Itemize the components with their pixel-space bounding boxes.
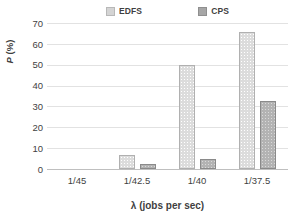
- legend-item-cps: CPS: [198, 7, 229, 16]
- bar-group-1-37-5: [227, 23, 287, 169]
- x-tick-label-1-45: 1/45: [47, 176, 107, 186]
- bar-group-1-42-5: [107, 23, 167, 169]
- legend-item-edfs: EDFS: [106, 7, 142, 16]
- bar-edfs-1-42-5[interactable]: [119, 155, 135, 169]
- y-tick-label-50: 50: [3, 60, 43, 70]
- x-tick-label-1-42-5: 1/42.5: [107, 176, 167, 186]
- y-axis-title: P (%): [4, 22, 15, 82]
- y-tick-label-60: 60: [3, 40, 43, 50]
- bar-edfs-1-37-5[interactable]: [239, 32, 255, 169]
- y-tick-label-0: 0: [3, 165, 43, 175]
- y-tick-label-20: 20: [3, 123, 43, 133]
- bar-cps-1-40[interactable]: [200, 159, 216, 169]
- x-axis-title: λ (jobs per sec): [47, 200, 288, 211]
- y-tick-label-10: 10: [3, 144, 43, 154]
- bar-cps-1-37-5[interactable]: [260, 101, 276, 169]
- y-tick-label-40: 40: [3, 81, 43, 91]
- legend-swatch-edfs-icon: [106, 7, 115, 16]
- x-tick-label-1-37-5: 1/37.5: [227, 176, 287, 186]
- legend-swatch-cps-icon: [198, 7, 207, 16]
- bar-chart-figure: EDFS CPS P (%) 70 60 50 40 30 20 10 0: [0, 0, 295, 223]
- legend-label-edfs: EDFS: [119, 7, 142, 16]
- bar-edfs-1-40[interactable]: [179, 65, 195, 169]
- plot-area: [47, 23, 288, 169]
- bar-group-1-40: [167, 23, 227, 169]
- x-axis-line: [47, 169, 288, 170]
- bar-cps-1-42-5[interactable]: [140, 164, 156, 169]
- chart-legend: EDFS CPS: [47, 3, 288, 19]
- y-tick-label-70: 70: [3, 19, 43, 29]
- y-tick-label-30: 30: [3, 102, 43, 112]
- bar-group-1-45: [47, 23, 107, 169]
- x-tick-label-1-40: 1/40: [167, 176, 227, 186]
- legend-label-cps: CPS: [211, 7, 229, 16]
